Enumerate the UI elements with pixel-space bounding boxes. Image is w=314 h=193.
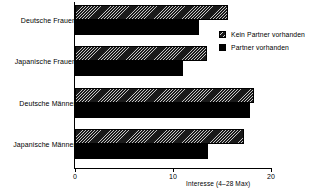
- bar-japanische-frauen-kein-partner: [75, 46, 207, 61]
- bar-japanische-frauen-partner: [75, 61, 183, 76]
- bar-japanische-maenner-kein-partner: [75, 129, 244, 144]
- bar-deutsche-maenner-kein-partner: [75, 88, 254, 103]
- category-label-japanische-frauen: Japanische Frauen: [15, 58, 76, 65]
- legend-label-kein-partner: Kein Partner vorhanden: [231, 31, 305, 38]
- x-tick-label-20: 20: [267, 173, 275, 180]
- bar-deutsche-frauen-partner: [75, 20, 199, 35]
- bar-deutsche-maenner-partner: [75, 103, 250, 118]
- legend-item-kein-partner: Kein Partner vorhanden: [219, 29, 305, 40]
- x-tick-10: [173, 168, 174, 172]
- legend: Kein Partner vorhanden Partner vorhanden: [219, 29, 305, 55]
- legend-swatch-hatched-icon: [219, 31, 226, 38]
- y-axis-line: [74, 2, 75, 168]
- bar-deutsche-frauen-kein-partner: [75, 5, 228, 20]
- x-tick-0: [75, 168, 76, 172]
- legend-item-partner: Partner vorhanden: [219, 42, 305, 53]
- bar-chart: Deutsche Frauen Japanische Frauen Deutsc…: [0, 0, 314, 193]
- legend-label-partner: Partner vorhanden: [231, 44, 289, 51]
- category-label-deutsche-maenner: Deutsche Männer: [19, 100, 76, 107]
- legend-swatch-solid-icon: [219, 44, 226, 51]
- x-tick-label-10: 10: [169, 173, 177, 180]
- category-label-deutsche-frauen: Deutsche Frauen: [21, 17, 76, 24]
- x-axis-title: Interesse (4–28 Max): [186, 180, 250, 187]
- x-tick-label-0: 0: [73, 173, 77, 180]
- x-tick-20: [271, 168, 272, 172]
- bar-japanische-maenner-partner: [75, 144, 208, 159]
- category-label-japanische-maenner: Japanische Männer: [13, 141, 76, 148]
